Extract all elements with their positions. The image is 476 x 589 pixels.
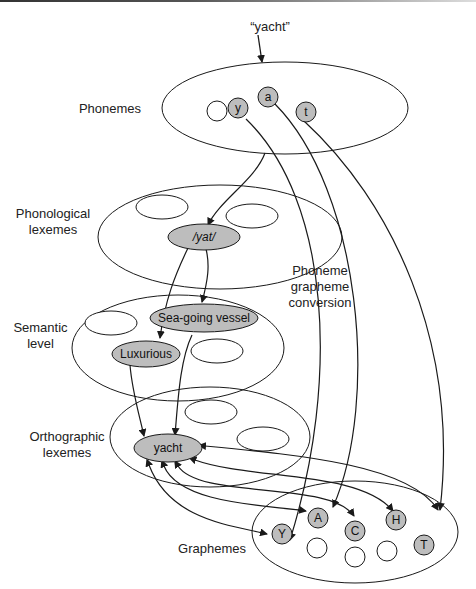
inactive-phoneme [207, 101, 227, 121]
level-label-line: Graphemes [172, 541, 252, 557]
inactive-grapheme [307, 538, 327, 558]
inactive-concept [191, 339, 243, 363]
level-label-orthographic-lexemes: Orthographic lexemes [22, 429, 112, 461]
inactive-grapheme [377, 541, 397, 561]
route-label-line: conversion [285, 295, 355, 311]
grapheme-Y: Y [272, 524, 292, 544]
level-label-line: Semantic [8, 320, 73, 336]
svg-text:Sea-going vessel: Sea-going vessel [158, 311, 250, 325]
level-label-line: level [8, 336, 73, 352]
level-label-graphemes: Graphemes [172, 541, 252, 557]
route-label-line: Phoneme [285, 263, 355, 279]
input-word-label: “yacht” [240, 19, 300, 35]
svg-text:Luxurious: Luxurious [120, 347, 172, 361]
level-label-line: lexemes [8, 222, 98, 238]
yacht-T-link [205, 446, 438, 510]
lexeme-yat: /yat/ [168, 224, 240, 250]
grapheme-C: C [345, 521, 365, 541]
inactive-lexeme [136, 195, 188, 219]
phoneme-y: y [228, 98, 248, 118]
level-label-phonological-lexemes: Phonological lexemes [8, 206, 98, 238]
svg-text:Y: Y [278, 527, 286, 541]
svg-text:A: A [314, 511, 322, 525]
grapheme-H: H [386, 510, 406, 530]
level-label-line: lexemes [22, 445, 112, 461]
yacht-Y-link [149, 465, 267, 534]
svg-text:/yat/: /yat/ [192, 230, 217, 244]
svg-text:H: H [392, 513, 401, 527]
t-to-T-arrow [304, 121, 443, 510]
inactive-orthographic [237, 427, 289, 451]
concept-sea-going-vessel: Sea-going vessel [150, 304, 258, 332]
grapheme-A: A [308, 508, 328, 528]
inactive-orthographic [185, 400, 237, 424]
lexeme-to-vessel-arrow [202, 249, 208, 302]
level-label-phonemes: Phonemes [70, 101, 150, 117]
y-to-Y-arrow [246, 119, 320, 540]
svg-text:yacht: yacht [154, 441, 183, 455]
input-arrow [258, 35, 262, 62]
route-label-line: grapheme [285, 279, 355, 295]
phoneme-a: a [258, 87, 278, 107]
grapheme-T: T [414, 535, 434, 555]
route-label-conversion: Phoneme grapheme conversion [285, 263, 355, 311]
inactive-concept [85, 311, 137, 335]
level-label-line: Phonemes [70, 101, 150, 117]
phonemes-ellipse [162, 62, 408, 154]
svg-text:T: T [420, 538, 428, 552]
svg-text:C: C [351, 524, 360, 538]
inactive-grapheme [345, 547, 365, 567]
phoneme-t: t [296, 102, 316, 122]
orthographic-yacht: yacht [134, 434, 202, 462]
concept-luxurious: Luxurious [112, 341, 180, 367]
level-label-line: Orthographic [22, 429, 112, 445]
svg-text:a: a [265, 90, 272, 104]
svg-text:y: y [235, 101, 241, 115]
level-label-line: Phonological [8, 206, 98, 222]
diagram-canvas: y a t /yat/ Sea-going vessel Luxurious y… [0, 0, 476, 589]
level-label-semantic: Semantic level [8, 320, 73, 352]
inactive-lexeme [226, 204, 278, 228]
